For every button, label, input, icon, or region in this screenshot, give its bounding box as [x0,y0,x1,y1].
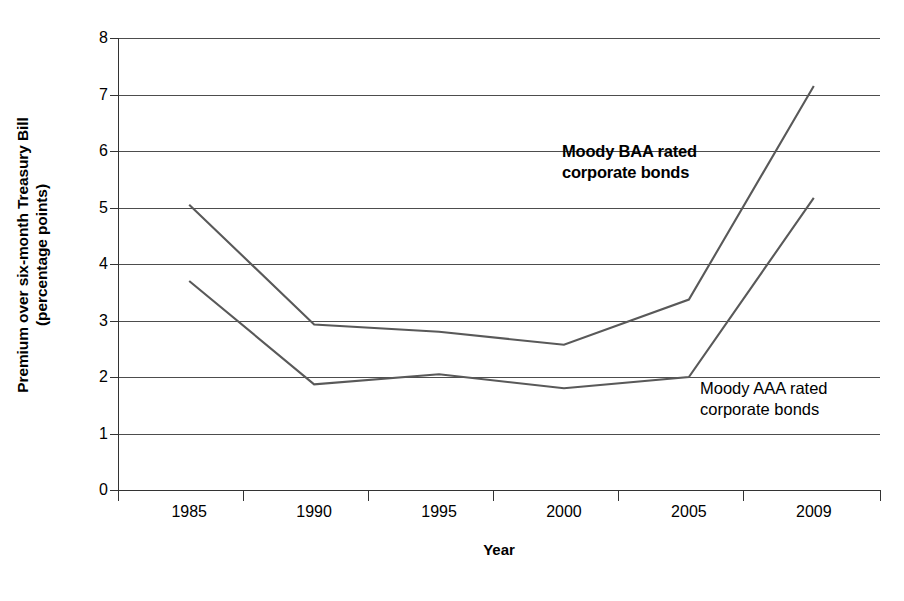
chart-figure: Premium over six-month Treasury Bill (pe… [0,0,904,601]
series-label-baa: Moody BAA rated corporate bonds [562,141,697,183]
y-tick-mark [110,95,119,96]
series-line-baa [189,86,814,345]
x-tick-mark [880,490,881,501]
x-axis-title: Year [118,541,880,558]
x-tick-label: 2000 [509,503,619,521]
x-tick-mark [743,490,744,501]
y-tick-mark [110,434,119,435]
x-tick-label: 1995 [384,503,494,521]
x-tick-mark [493,490,494,501]
series-label-aaa-line-2: corporate bonds [700,399,828,420]
x-tick-label: 2009 [759,503,869,521]
x-tick-label: 2005 [634,503,744,521]
x-tick-mark [618,490,619,501]
series-label-baa-line-1: Moody BAA rated [562,141,697,162]
x-tick-label: 1990 [259,503,369,521]
y-tick-mark [110,38,119,39]
y-tick-mark [110,377,119,378]
x-tick-label: 1985 [134,503,244,521]
x-tick-mark [243,490,244,501]
series-label-baa-line-2: corporate bonds [562,162,697,183]
x-tick-mark [118,490,119,501]
y-tick-mark [110,151,119,152]
y-tick-mark [110,264,119,265]
x-tick-mark [368,490,369,501]
series-label-aaa-line-1: Moody AAA rated [700,378,828,399]
y-tick-mark [110,321,119,322]
series-label-aaa: Moody AAA rated corporate bonds [700,378,828,420]
y-tick-mark [110,208,119,209]
